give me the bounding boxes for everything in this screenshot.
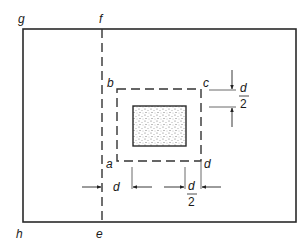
dimension-bottom-d: d xyxy=(82,167,152,194)
dim-bottom-d-label: d xyxy=(113,180,120,194)
dim-bottom-right-denominator: 2 xyxy=(188,195,195,209)
label-f: f xyxy=(99,12,104,26)
label-g: g xyxy=(18,12,25,26)
label-b: b xyxy=(107,76,114,90)
dim-bottom-right-numerator: d xyxy=(188,179,195,193)
dim-right-numerator: d xyxy=(240,81,247,95)
label-a: a xyxy=(106,157,113,171)
label-d-corner: d xyxy=(204,157,211,171)
dimension-bottom-d-half: d 2 xyxy=(164,162,221,209)
dim-right-denominator: 2 xyxy=(240,97,247,111)
label-e: e xyxy=(96,227,103,241)
punching-shear-diagram: g f h e b c a d d 2 d d 2 xyxy=(0,0,308,248)
dimension-right-d-half: d 2 xyxy=(209,70,249,127)
column xyxy=(133,106,186,146)
label-h: h xyxy=(16,227,23,241)
label-c: c xyxy=(203,76,209,90)
